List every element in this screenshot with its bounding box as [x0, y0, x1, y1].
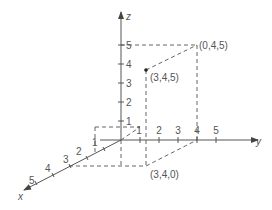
diagram-canvas: z y x 1 2 3 4 5 1 2 3 4 5 1 2 3 4 5 (3,4… [0, 0, 272, 210]
z-tick-label: 4 [126, 59, 132, 70]
axes [24, 12, 258, 190]
z-tick-label: 5 [126, 40, 132, 51]
y-tick-label: 2 [156, 125, 162, 136]
x-tick-label: 1 [92, 137, 98, 148]
x-tick-label: 4 [45, 163, 51, 174]
point-label-3-4-0: (3,4,0) [150, 169, 179, 180]
x-tick-label: 2 [76, 146, 82, 157]
y-axis-label: y [255, 136, 262, 147]
x-axis [24, 140, 121, 190]
x-tick-label: 5 [29, 175, 35, 186]
point-marker-3-4-5 [144, 68, 148, 72]
z-tick-label: 3 [126, 78, 132, 89]
x-axis-label: x [17, 191, 24, 202]
y-tick-label: 4 [194, 125, 200, 136]
point-label-3-4-5: (3,4,5) [150, 72, 179, 83]
z-tick-label: 2 [126, 97, 132, 108]
y-tick-label: 3 [175, 125, 181, 136]
z-tick-label: 1 [126, 116, 132, 127]
x-tick-label: 3 [63, 154, 69, 165]
projection-lines [69, 45, 197, 166]
y-tick-label: 1 [136, 125, 142, 136]
point-label-0-4-5: (0,4,5) [199, 40, 228, 51]
y-tick-label: 5 [213, 125, 219, 136]
z-axis-label: z [125, 11, 131, 22]
